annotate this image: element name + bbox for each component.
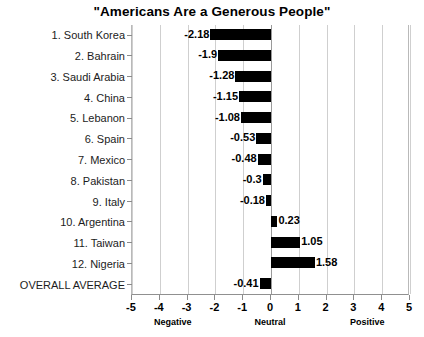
category-tick [127,263,132,264]
bar [263,174,271,185]
x-tick-label: 3 [350,301,356,313]
x-axis: -5-4-3-2-1012345NegativeNeutralPositive [131,295,409,337]
category-tick [127,242,132,243]
chart-title: "Americans Are a Generous People" [0,4,424,19]
bar-row: 1.58 [132,253,408,274]
category-label-text: 8. Pakistan [71,175,128,187]
x-tick [381,295,382,300]
category-tick [127,180,132,181]
x-tick [242,295,243,300]
x-tick-label: -5 [126,301,136,313]
bar [235,71,271,82]
bar-row: -2.18 [132,25,408,46]
bar [218,50,271,61]
x-tick [187,295,188,300]
category-label-4: 4. China [0,87,128,108]
bar-value-label: -0.41 [234,277,260,289]
bar-value-label: -1.28 [209,69,235,81]
category-tick [127,97,132,98]
x-tick [353,295,354,300]
bar [241,112,271,123]
category-tick [127,118,132,119]
category-tick [127,138,132,139]
x-tick-label: -2 [210,301,220,313]
bar-row: -0.18 [132,191,408,212]
bar [271,237,300,248]
category-tick [127,159,132,160]
category-tick [127,284,132,285]
category-label-5: 5. Lebanon [0,108,128,129]
bar-row: 1.05 [132,233,408,254]
x-tick [159,295,160,300]
bar-value-label: -1.9 [198,48,218,60]
bar-row: -1.15 [132,87,408,108]
category-tick [127,201,132,202]
x-tick-label: 1 [295,301,301,313]
x-tick [270,295,271,300]
bar [271,257,315,268]
category-label-text: 3. Saudi Arabia [50,71,128,83]
bar-row: -0.3 [132,170,408,191]
category-label-10: 10. Argentina [0,212,128,233]
category-label-1: 1. South Korea [0,25,128,46]
category-label-text: 9. Italy [93,196,128,208]
x-tick [214,295,215,300]
bar [210,29,271,40]
category-tick [127,55,132,56]
bar [239,91,271,102]
plot-area: -2.18-1.9-1.28-1.15-1.08-0.53-0.48-0.3-0… [131,25,409,295]
chart-container: "Americans Are a Generous People" 1. Sou… [0,0,424,337]
category-label-11: 11. Taiwan [0,233,128,254]
category-label-text: 6. Spain [85,133,128,145]
bar-value-label: -0.3 [243,173,263,185]
bar-row: -0.41 [132,274,408,295]
bar-row: -0.48 [132,150,408,171]
category-tick [127,221,132,222]
x-tick [131,295,132,300]
bar [260,278,271,289]
category-tick [127,76,132,77]
category-label-text: OVERALL AVERAGE [20,279,128,291]
category-label-12: 12. Nigeria [0,253,128,274]
x-tick-label: 5 [406,301,412,313]
x-tick [298,295,299,300]
bar-row: -1.28 [132,67,408,88]
category-label-6: 6. Spain [0,129,128,150]
gridline-5 [410,25,411,294]
category-label-3: 3. Saudi Arabia [0,67,128,88]
x-tick [326,295,327,300]
category-label-text: 1. South Korea [52,29,128,41]
bar-value-label: -1.15 [213,90,239,102]
bar-row: -1.9 [132,46,408,67]
category-label-13: OVERALL AVERAGE [0,274,128,295]
zone-label-neutral: Neutral [254,317,285,327]
bar-row: -1.08 [132,108,408,129]
category-label-2: 2. Bahrain [0,46,128,67]
zone-label-positive: Positive [350,317,385,327]
x-tick-label: -1 [237,301,247,313]
bar-value-label: 0.23 [277,214,299,226]
bar-row: -0.53 [132,129,408,150]
category-label-text: 7. Mexico [78,154,128,166]
bar [256,133,271,144]
x-tick [409,295,410,300]
bar-value-label: -0.18 [240,194,266,206]
bar-value-label: -0.48 [232,152,258,164]
bar [266,195,271,206]
x-tick-label: 4 [378,301,384,313]
category-axis-labels: 1. South Korea2. Bahrain3. Saudi Arabia4… [0,25,128,295]
category-label-text: 4. China [84,92,128,104]
category-tick [127,35,132,36]
category-label-text: 10. Argentina [60,216,128,228]
bar-value-label: -1.08 [215,111,241,123]
bar-row: 0.23 [132,212,408,233]
bar-value-label: -0.53 [230,131,256,143]
category-label-8: 8. Pakistan [0,170,128,191]
category-label-9: 9. Italy [0,191,128,212]
bar-value-label: 1.58 [315,256,337,268]
category-label-text: 11. Taiwan [73,237,128,249]
x-tick-label: -3 [182,301,192,313]
x-tick-label: 2 [323,301,329,313]
x-tick-label: 0 [267,301,273,313]
bar-value-label: -2.18 [184,28,210,40]
